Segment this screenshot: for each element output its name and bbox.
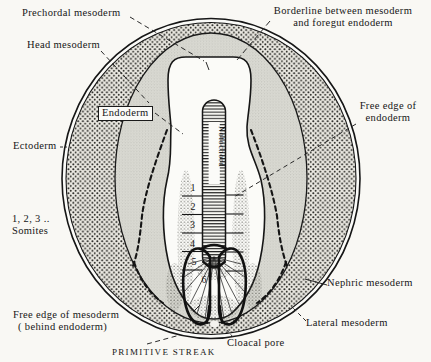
label-prechordal-mesoderm: Prechordal mesoderm [22, 7, 121, 19]
somite-number-4: 4 [190, 238, 195, 249]
leader-lateral-mesoderm [293, 308, 306, 321]
somite-number-1: 1 [191, 182, 196, 193]
label-free-edge-endoderm-line2: endoderm [350, 112, 426, 124]
label-head-mesoderm: Head mesoderm [27, 39, 100, 51]
label-free-edge-mesoderm: Free edge of mesoderm ( behind endoderm) [13, 309, 119, 333]
somite-number-3: 3 [190, 219, 195, 230]
label-primitive-streak: PRIMITIVE STREAK [112, 346, 216, 358]
somite-number-6: 6 [202, 274, 207, 285]
label-nephric-mesoderm: Nephric mesoderm [327, 277, 413, 289]
notochord-rod: Notochord [203, 100, 226, 268]
label-borderline-line1: Borderline between mesoderm [264, 5, 422, 17]
label-lateral-mesoderm: Lateral mesoderm [306, 317, 388, 329]
label-somites-line1: 1, 2, 3 .. [12, 213, 50, 225]
label-endoderm-box: Endoderm [98, 106, 153, 121]
somite-number-2: 2 [191, 201, 196, 212]
notochord-label: Notochord [217, 126, 226, 167]
label-free-edge-mesoderm-line1: Free edge of mesoderm [13, 309, 119, 321]
label-free-edge-endoderm-line1: Free edge of [350, 100, 426, 112]
label-borderline-line2: and foregut endoderm [264, 17, 422, 29]
label-somites-line2: Somites [12, 225, 50, 237]
label-borderline: Borderline between mesoderm and foregut … [264, 5, 422, 29]
label-somites: 1, 2, 3 .. Somites [12, 213, 50, 237]
label-cloacal-pore: Cloacal pore [227, 337, 285, 349]
cloacal-pore-gap [210, 321, 219, 327]
label-free-edge-endoderm: Free edge of endoderm [350, 100, 426, 124]
label-free-edge-mesoderm-line2: ( behind endoderm) [13, 321, 119, 333]
leader-primitive-streak [147, 335, 180, 344]
embryo-diagram-drawing: Notochord [0, 0, 431, 362]
embryo-fate-map-figure: Notochord [0, 0, 431, 362]
somite-number-5: 5 [192, 256, 197, 267]
label-ectoderm: Ectoderm [13, 140, 57, 152]
